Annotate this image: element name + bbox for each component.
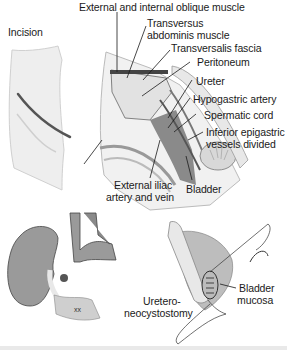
label-mucosa: mucosa	[237, 294, 273, 306]
label-abdominis-muscle: abdominis muscle	[147, 29, 229, 41]
incision-torso-drawing	[9, 46, 70, 190]
bottom-border	[0, 346, 287, 350]
label-uretero: Uretero-	[143, 295, 181, 307]
label-bladder-2: Bladder	[239, 282, 275, 294]
label-peritoneum: Peritoneum	[197, 56, 250, 68]
label-artery-and-vein: artery and vein	[106, 191, 174, 203]
label-external-iliac: External iliac	[114, 179, 172, 191]
label-inferior-epigastric: Inferior epigastric	[206, 126, 285, 138]
label-hypogastric-artery: Hypogastric artery	[193, 93, 276, 105]
label-transversalis-fascia: Transversalis fascia	[171, 42, 261, 54]
label-external-internal-oblique: External and internal oblique muscle	[79, 1, 245, 13]
label-bladder: Bladder	[186, 183, 222, 195]
svg-text:xx: xx	[74, 306, 82, 313]
kidney-transplant-drawing: xx	[8, 213, 116, 320]
label-vessels-divided: vessels divided	[206, 138, 276, 150]
label-neocystostomy: neocystostomy	[124, 307, 193, 319]
label-ureter: Ureter	[196, 75, 225, 87]
label-spermatic-cord: Spermatic cord	[204, 109, 273, 121]
incision-title: Incision	[8, 26, 43, 38]
label-transversus: Transversus	[147, 17, 203, 29]
